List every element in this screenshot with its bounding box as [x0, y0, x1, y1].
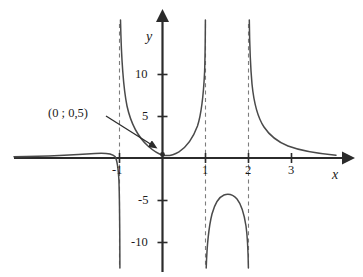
y-intercept-marker [160, 152, 165, 157]
y-tick-label-5: 5 [142, 110, 148, 123]
x-tick-label-1: 1 [202, 164, 208, 177]
x-tick-label--1: -1 [112, 164, 122, 177]
asymptote-group [120, 24, 249, 268]
y-tick-label--10: -10 [131, 236, 148, 249]
x-axis-name: x [332, 168, 338, 182]
plot-canvas [0, 0, 363, 277]
curve-group [14, 20, 336, 268]
function-graph-figure: -1 1 2 3 10 5 -5 -10 y x (0 ; 0,5) [0, 0, 363, 277]
curve-branch-right [249, 20, 336, 155]
axes-group [14, 20, 344, 272]
curve-branch-far-left [14, 153, 120, 268]
y-intercept-annotation: (0 ; 0,5) [48, 107, 88, 120]
y-tick-label--5: -5 [138, 194, 148, 207]
y-axis-name: y [146, 30, 152, 44]
callout-group [106, 116, 165, 157]
y-tick-label-10: 10 [135, 68, 148, 81]
curve-branch-middle-right [206, 194, 248, 268]
x-tick-label-2: 2 [245, 164, 251, 177]
x-tick-label-3: 3 [288, 164, 294, 177]
